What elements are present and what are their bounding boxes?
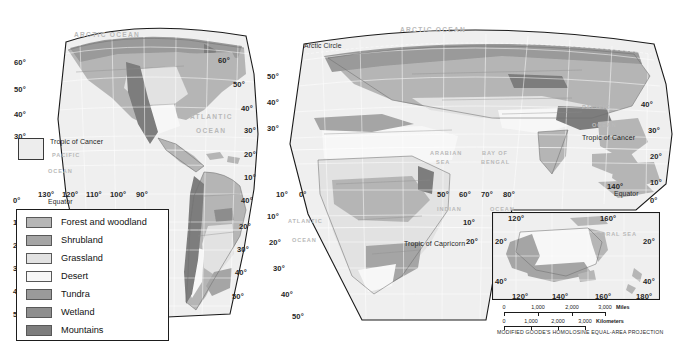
legend-swatch-desert: [26, 271, 52, 282]
world-pacific-label: PACIFIC: [582, 104, 610, 110]
legend-swatch-forest: [26, 217, 52, 228]
legend-item-tundra: Tundra: [26, 288, 90, 301]
world-biomes-map-figure: 60° 50° 40° 30° 0° 10° 20° 30° 40° 50° 6…: [0, 0, 683, 355]
scale-miles-tick-2: 2,000: [565, 304, 579, 310]
legend-label-grassland: Grassland: [61, 253, 103, 264]
legend-item-shrubland: Shrubland: [26, 234, 103, 247]
americas-atlantic-ocean-label: OCEAN: [196, 127, 226, 134]
australia-lat-20-left: 20°: [495, 237, 507, 246]
legend-swatch-tundra: [26, 289, 52, 300]
world-bay-of-label: BAY OF: [482, 150, 508, 156]
world-lat-40-left-s: 40°: [281, 290, 293, 299]
australia-coral-sea-label: CORAL SEA: [596, 231, 637, 237]
americas-arctic-ocean-label: ARCTIC OCEAN: [74, 31, 140, 38]
americas-lat-60-right: 60°: [218, 56, 230, 65]
australia-lat-40-right: 40°: [643, 277, 655, 286]
australia-lat-20-right: 20°: [643, 237, 655, 246]
legend-label-forest: Forest and woodland: [61, 217, 147, 228]
legend-label-mountains: Mountains: [61, 325, 103, 336]
world-tropic-of-capricorn-label: Tropic of Capricorn: [404, 240, 465, 247]
world-lat-20-left-s: 20°: [269, 238, 281, 247]
legend-label-tundra: Tundra: [61, 289, 90, 300]
scale-miles-tick-3: 3,000: [598, 304, 612, 310]
americas-tropic-of-cancer-label: Tropic of Cancer: [50, 138, 103, 145]
americas-lat-40-left: 40°: [14, 110, 26, 119]
world-lat-40-left: 40°: [267, 98, 279, 107]
americas-lat-30-right-s: 30°: [237, 245, 249, 254]
legend-swatch-grassland: [26, 253, 52, 264]
world-arctic-ocean-label: ARCTIC OCEAN: [400, 26, 466, 33]
americas-lon-90: 90°: [136, 190, 148, 199]
americas-lat-40-right-s: 40°: [235, 268, 247, 277]
world-lat-10-left-s: 10°: [267, 212, 279, 221]
world-lon-80: 80°: [503, 190, 515, 199]
scale-miles-tick-0: 0: [503, 304, 506, 310]
world-lat-40-right: 40°: [641, 100, 653, 109]
world-tropic-of-cancer-label: Tropic of Cancer: [582, 134, 635, 141]
world-lat-30-right: 30°: [648, 126, 660, 135]
americas-lat-20-right-s: 20°: [239, 222, 251, 231]
americas-lat-0-left: 0°: [13, 196, 20, 205]
world-equator-label: Equator: [614, 190, 639, 197]
world-lat-20-right: 20°: [650, 152, 662, 161]
world-lat-10-left: 10°: [276, 190, 288, 199]
americas-lat-40-right: 40°: [241, 104, 253, 113]
world-arabian-label: ARABIAN: [430, 150, 462, 156]
americas-lon-110: 110°: [86, 190, 102, 199]
australia-lon-160-bottom: 160°: [595, 292, 611, 301]
world-pacific-ocean-label: OCEAN: [592, 122, 617, 128]
australia-inset-panel: [492, 212, 660, 300]
world-atlantic-label: ATLANTIC: [288, 218, 323, 224]
americas-inset-callout-box: [18, 138, 44, 160]
scale-miles-unit: Miles: [616, 304, 629, 310]
legend-label-shrubland: Shrubland: [61, 235, 103, 246]
americas-lat-30-right: 30°: [244, 126, 256, 135]
americas-lon-100: 100°: [110, 190, 126, 199]
australia-lat-40-left: 40°: [495, 277, 507, 286]
world-lon-60: 60°: [459, 190, 471, 199]
world-indian-label: INDIAN: [437, 206, 462, 212]
world-arabian-sea-label: SEA: [436, 159, 450, 165]
world-capricorn-lat-10: 10°: [463, 218, 475, 227]
legend-item-mountains: Mountains: [26, 324, 103, 337]
world-lon-50: 50°: [437, 190, 449, 199]
legend-item-grassland: Grassland: [26, 252, 103, 265]
australia-lon-120-top: 120°: [508, 214, 524, 223]
legend-swatch-wetland: [26, 307, 52, 318]
world-arctic-circle-label: Arctic Circle: [304, 42, 342, 49]
world-lat-30-left-s: 30°: [273, 264, 285, 273]
americas-equator-label: Equator: [48, 198, 73, 205]
australia-lon-120-bottom: 120°: [512, 292, 528, 301]
australia-lon-160-top: 160°: [600, 214, 616, 223]
scale-km-tick-1: 1,000: [524, 318, 538, 324]
legend-item-desert: Desert: [26, 270, 88, 283]
world-lon-0-row: 0°: [299, 190, 306, 199]
americas-pacific-label: PACIFIC: [52, 152, 80, 158]
scale-km-tick-2: 2,000: [551, 318, 565, 324]
biome-legend: Forest and woodland Shrubland Grassland …: [16, 209, 169, 341]
world-capricorn-lat-20: 20°: [466, 237, 478, 246]
americas-lat-50-right: 50°: [233, 80, 245, 89]
legend-swatch-mountains: [26, 325, 52, 336]
americas-lat-60-left: 60°: [14, 58, 26, 67]
legend-label-desert: Desert: [61, 271, 88, 282]
americas-pacific-ocean-label: OCEAN: [48, 168, 73, 174]
world-lat-50-left-s: 50°: [292, 312, 304, 321]
world-lat-10-right: 10°: [650, 178, 662, 187]
world-atlantic-ocean-label: OCEAN: [292, 237, 317, 243]
legend-label-wetland: Wetland: [61, 307, 95, 318]
world-lon-70: 70°: [481, 190, 493, 199]
scale-km-unit: Kilometers: [596, 318, 624, 324]
scale-km-tick-0: 0: [503, 318, 506, 324]
legend-item-forest: Forest and woodland: [26, 216, 147, 229]
legend-item-wetland: Wetland: [26, 306, 95, 319]
legend-swatch-shrubland: [26, 235, 52, 246]
australia-lon-140-bottom: 140°: [552, 292, 568, 301]
world-bengal-label: BENGAL: [481, 159, 510, 165]
scale-bar-miles: 0 1,000 2,000 3,000 Miles: [504, 312, 606, 317]
americas-lat-10-right: 10°: [244, 173, 256, 182]
americas-lat-0-right: 40°: [241, 196, 253, 205]
australia-lon-180-bottom: 180°: [636, 292, 652, 301]
scale-km-tick-3: 3,000: [578, 318, 592, 324]
americas-lat-20-right: 20°: [244, 150, 256, 159]
